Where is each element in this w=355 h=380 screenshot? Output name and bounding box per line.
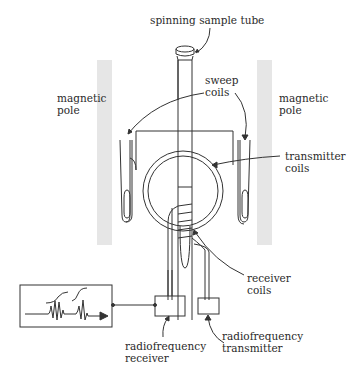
label-rf-receiver-line2: receiver [125,352,169,364]
label-sweep-coils-line2: coils [205,86,229,98]
transmitter-coils [143,151,223,231]
diagram-drawing [0,0,355,380]
label-sweep-coils-line1: sweep [205,74,239,86]
label-left-magnetic-pole-line2: pole [57,104,80,116]
label-receiver-coils-line2: coils [247,284,271,296]
spectrum-readout [20,285,112,327]
label-receiver-coils-line1: receiver [247,272,291,284]
label-right-magnetic-pole-line1: magnetic [279,92,328,104]
sweep-coils [120,131,250,224]
rf-transmitter-box [198,298,219,314]
sample-tube [176,46,194,320]
label-right-magnetic-pole-line2: pole [279,104,302,116]
nmr-spectrometer-diagram: spinning sample tube sweep coils magneti… [0,0,355,380]
label-rf-transmitter-line2: transmitter [222,342,283,354]
label-transmitter-coils-line1: transmitter [285,150,346,162]
left-magnetic-pole [97,60,112,245]
label-rf-transmitter-line1: radiofrequency [222,330,303,342]
rf-receiver-box [155,296,185,316]
label-left-magnetic-pole-line1: magnetic [57,92,106,104]
label-transmitter-coils-line2: coils [285,162,309,174]
right-magnetic-pole [257,60,272,245]
label-spinning-sample-tube: spinning sample tube [150,14,264,26]
receiver-coils [168,204,209,300]
label-rf-receiver-line1: radiofrequency [125,340,206,352]
